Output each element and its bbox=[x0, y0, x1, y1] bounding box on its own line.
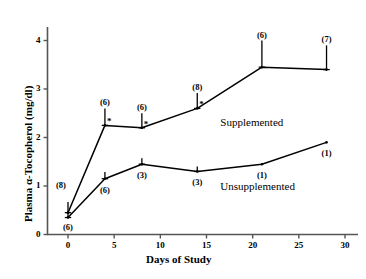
sample-size-label: (7) bbox=[314, 34, 340, 44]
significance-marker: * bbox=[199, 99, 204, 109]
y-axis-tick-label: 2 bbox=[27, 132, 41, 142]
sample-size-label: (6) bbox=[92, 185, 118, 195]
y-axis-tick-label: 0 bbox=[27, 229, 41, 239]
x-axis-tick-label: 15 bbox=[195, 240, 219, 250]
x-axis-title: Days of Study bbox=[146, 253, 211, 265]
x-axis-tick-label: 20 bbox=[241, 240, 265, 250]
series-label-supplemented: Supplemented bbox=[220, 116, 283, 128]
y-axis-title: Plasma α-Tocopherol (mg/dl) bbox=[22, 86, 34, 222]
chart-figure: Days of Study Plasma α-Tocopherol (mg/dl… bbox=[0, 0, 366, 279]
sample-size-label: (1) bbox=[314, 148, 340, 158]
x-axis-tick-label: 0 bbox=[56, 240, 80, 250]
sample-size-label: (6) bbox=[129, 102, 155, 112]
y-axis-tick-label: 3 bbox=[27, 83, 41, 93]
x-axis-tick-label: 10 bbox=[148, 240, 172, 250]
sample-size-label: (3) bbox=[184, 177, 210, 187]
series-label-unsupplemented: Unsupplemented bbox=[220, 180, 295, 192]
sample-size-label: (6) bbox=[55, 222, 81, 232]
chart-plot-area bbox=[0, 0, 366, 279]
y-axis-tick-label: 1 bbox=[27, 180, 41, 190]
sample-size-label: (6) bbox=[92, 97, 118, 107]
x-axis-tick-label: 30 bbox=[333, 240, 357, 250]
sample-size-label: (3) bbox=[129, 170, 155, 180]
x-axis-tick-label: 5 bbox=[102, 240, 126, 250]
significance-marker: * bbox=[107, 116, 112, 126]
significance-marker: * bbox=[144, 119, 149, 129]
x-axis-tick-label: 25 bbox=[287, 240, 311, 250]
sample-size-label: (6) bbox=[249, 30, 275, 40]
sample-size-label: (8) bbox=[184, 82, 210, 92]
y-axis-tick-label: 4 bbox=[27, 35, 41, 45]
sample-size-label: (1) bbox=[249, 170, 275, 180]
sample-size-label: (8) bbox=[48, 180, 74, 190]
